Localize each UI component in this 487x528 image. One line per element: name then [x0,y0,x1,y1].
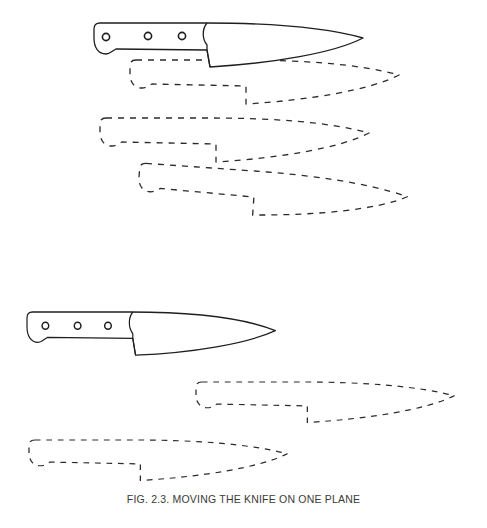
dashed-knife-position-a [196,382,454,422]
rivet-icon [144,32,151,39]
knife-figure [0,0,487,528]
lower-sequence [27,312,454,480]
solid-knife-lower [27,312,275,355]
figure-caption: FIG. 2.3. MOVING THE KNIFE ON ONE PLANE [0,493,487,505]
rivet-icon [178,32,185,39]
dashed-knife-position-2 [100,118,369,162]
dashed-knife-position-1 [130,60,399,104]
rivet-icon [102,33,109,40]
upper-sequence [94,23,408,226]
rivet-icon [74,322,81,329]
rivet-icon [105,322,112,329]
dashed-knife-position-b [29,440,287,480]
dashed-knife-position-3 [137,163,408,226]
rivet-icon [42,322,49,329]
